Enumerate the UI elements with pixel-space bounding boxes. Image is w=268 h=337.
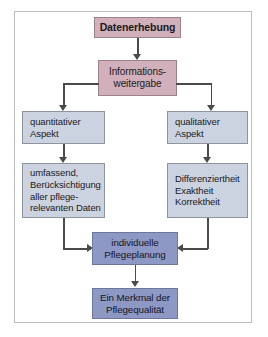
arrowhead-to-result [131,281,139,287]
node-datenerhebung: Datenerhebung [94,17,181,38]
connector-quantitativ-to-detail [63,144,65,158]
node-informationsweitergabe-label: Informations- weitergabe [109,66,166,90]
node-ein-merkmal-pflegequalitaet: Ein Merkmal der Pflegequalität [92,288,178,319]
connector-qualitativ-to-detail [207,144,209,158]
connector-merge-to-result [135,265,137,282]
connector-info-left-bus [63,83,99,85]
node-umfassend-details: umfassend, Berücksichtigung aller pflege… [22,163,105,218]
connector-info-right-bus [176,83,212,85]
connector-datenerhebung-to-info [137,38,139,55]
node-quantitativer-aspekt: quantitativer Aspekt [22,111,105,144]
node-differenziertheit-details: Differenziertheit Exaktheit Korrektheit [167,163,248,218]
node-individuelle-pflegeplanung: individuelle Pflegeplanung [92,232,178,265]
node-qualitativer-aspekt-label: qualitativer Aspekt [175,116,220,139]
connector-info-right-drop [211,83,213,107]
node-umfassend-details-label: umfassend, Berücksichtigung aller pflege… [30,167,101,213]
connector-info-left-drop [63,83,65,107]
node-quantitativer-aspekt-label: quantitativer Aspekt [30,116,80,139]
connector-left-detail-drop [63,218,65,249]
flowchart-figure: Datenerhebung Informations- weitergabe q… [0,0,268,337]
connector-right-detail-to-merge [181,248,208,250]
node-ein-merkmal-pflegequalitaet-label: Ein Merkmal der Pflegequalität [100,292,170,316]
node-individuelle-pflegeplanung-label: individuelle Pflegeplanung [104,237,165,261]
node-datenerhebung-label: Datenerhebung [100,21,176,34]
connector-right-detail-drop [207,218,209,249]
node-qualitativer-aspekt: qualitativer Aspekt [167,111,248,144]
node-informationsweitergabe: Informations- weitergabe [98,60,177,96]
node-differenziertheit-details-label: Differenziertheit Exaktheit Korrektheit [175,173,240,208]
